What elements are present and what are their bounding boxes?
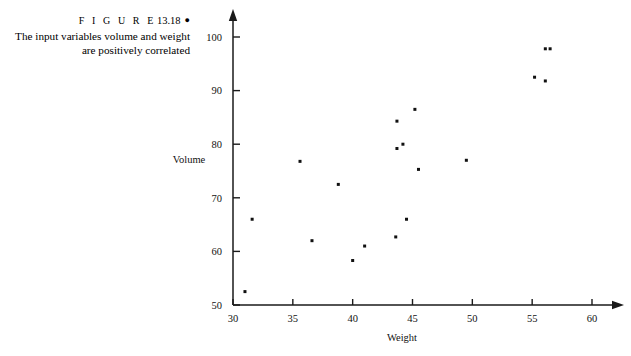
data-point-marker xyxy=(251,218,254,221)
data-point-marker xyxy=(544,79,547,82)
data-point-marker xyxy=(401,143,404,146)
x-tick-label: 45 xyxy=(407,313,418,324)
x-axis-ticks: 30354045505560 xyxy=(228,299,598,324)
y-tick-label: 90 xyxy=(212,85,223,96)
x-tick-label: 35 xyxy=(288,313,299,324)
data-point-marker xyxy=(299,160,302,163)
y-tick-label: 80 xyxy=(212,139,223,150)
y-tick-label: 60 xyxy=(212,246,223,257)
data-point-marker xyxy=(395,120,398,123)
y-tick-label: 70 xyxy=(212,193,223,204)
data-point-marker xyxy=(337,183,340,186)
y-axis-ticks: 5060708090100 xyxy=(206,32,240,311)
x-tick-label: 60 xyxy=(587,313,598,324)
scatter-plot: 30354045505560 5060708090100 Weight Volu… xyxy=(0,0,631,356)
data-point-marker xyxy=(351,259,354,262)
data-point-marker xyxy=(363,245,366,248)
x-axis-label: Weight xyxy=(387,332,417,343)
x-axis-arrow-icon xyxy=(612,301,624,309)
y-tick-label: 50 xyxy=(212,300,223,311)
x-tick-label: 40 xyxy=(347,313,358,324)
data-point-marker xyxy=(533,76,536,79)
plot-axes xyxy=(229,9,624,309)
y-axis-arrow-icon xyxy=(229,9,237,21)
x-tick-label: 50 xyxy=(467,313,478,324)
data-point-marker xyxy=(549,47,552,50)
y-tick-label: 100 xyxy=(206,32,222,43)
data-point-marker xyxy=(394,235,397,238)
x-tick-label: 55 xyxy=(527,313,538,324)
data-points xyxy=(243,47,551,293)
data-point-marker xyxy=(310,239,313,242)
y-axis-label: Volume xyxy=(173,154,206,165)
data-point-marker xyxy=(413,108,416,111)
data-point-marker xyxy=(405,218,408,221)
data-point-marker xyxy=(395,147,398,150)
data-point-marker xyxy=(243,290,246,293)
data-point-marker xyxy=(544,47,547,50)
data-point-marker xyxy=(417,168,420,171)
data-point-marker xyxy=(465,159,468,162)
x-tick-label: 30 xyxy=(228,313,239,324)
